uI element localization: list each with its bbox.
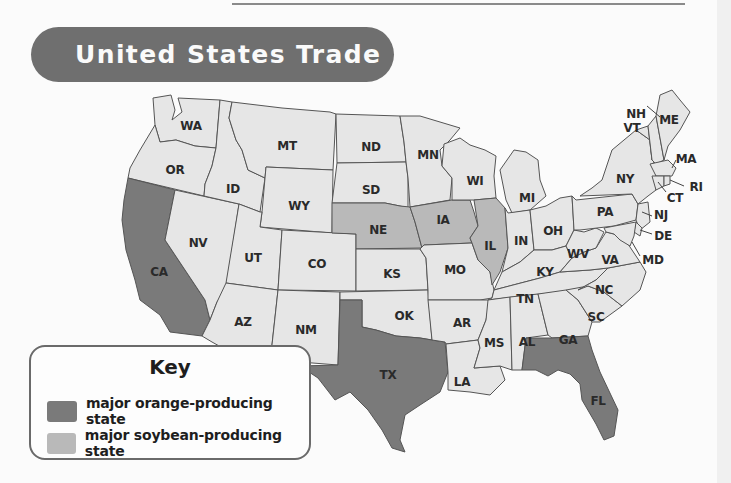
label-tx: TX: [380, 368, 398, 382]
key-title: Key: [31, 355, 309, 379]
label-oh: OH: [543, 224, 563, 238]
label-az: AZ: [234, 315, 252, 329]
label-nv: NV: [189, 236, 209, 250]
state-fl[interactable]: [522, 336, 618, 440]
key-label-orange: major orange-producing state: [86, 395, 309, 427]
label-id: ID: [226, 182, 240, 196]
label-nh: NH: [626, 107, 646, 121]
label-wa: WA: [180, 119, 202, 133]
key-label-soybean: major soybean-producing state: [85, 427, 309, 459]
label-md: MD: [642, 253, 664, 267]
label-wy: WY: [288, 199, 310, 213]
label-nc: NC: [595, 283, 614, 297]
label-ma: MA: [676, 152, 698, 166]
key-item-soybean: major soybean-producing state: [47, 427, 309, 459]
label-mo: MO: [444, 263, 466, 277]
label-wv: WV: [567, 247, 590, 261]
label-nd: ND: [361, 140, 381, 154]
label-ct: CT: [667, 191, 685, 205]
map-key: Key major orange-producing state major s…: [29, 345, 311, 460]
label-mn: MN: [417, 148, 438, 162]
label-me: ME: [659, 113, 679, 127]
label-pa: PA: [597, 205, 614, 219]
state-nd[interactable]: [336, 114, 406, 163]
label-ks: KS: [383, 267, 400, 281]
soybean-swatch: [47, 433, 76, 454]
label-ca: CA: [150, 265, 169, 279]
label-ky: KY: [536, 265, 554, 279]
label-ok: OK: [395, 309, 415, 323]
label-il: IL: [484, 239, 496, 253]
label-sc: SC: [588, 310, 605, 324]
label-vt: VT: [624, 121, 642, 135]
label-mt: MT: [277, 139, 298, 153]
label-nm: NM: [295, 323, 316, 337]
label-or: OR: [166, 163, 185, 177]
label-in: IN: [514, 234, 528, 248]
label-ny: NY: [616, 172, 635, 186]
label-ar: AR: [453, 316, 471, 330]
label-ms: MS: [484, 336, 504, 350]
label-fl: FL: [590, 394, 606, 408]
label-la: LA: [454, 375, 471, 389]
orange-swatch: [47, 401, 77, 422]
label-ut: UT: [244, 251, 262, 265]
leader-ri: [670, 180, 684, 186]
label-co: CO: [308, 257, 327, 271]
label-nj: NJ: [654, 208, 668, 222]
label-wi: WI: [466, 174, 483, 188]
label-ri: RI: [689, 180, 702, 194]
label-de: DE: [654, 229, 672, 243]
key-item-orange: major orange-producing state: [47, 395, 309, 427]
label-ia: IA: [436, 213, 450, 227]
leader-de: [640, 230, 652, 234]
label-tn: TN: [516, 292, 534, 306]
state-ri[interactable]: [664, 176, 670, 186]
label-va: VA: [601, 253, 619, 267]
label-al: AL: [519, 335, 536, 349]
label-ga: GA: [559, 333, 579, 347]
label-sd: SD: [362, 183, 380, 197]
state-ny[interactable]: [580, 130, 656, 204]
label-ne: NE: [369, 223, 387, 237]
label-mi: MI: [519, 191, 535, 205]
